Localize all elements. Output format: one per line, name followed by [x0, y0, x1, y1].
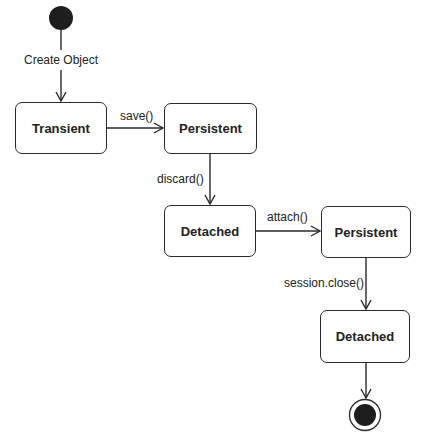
label-save: save() — [120, 109, 153, 123]
label-attach: attach() — [267, 210, 308, 224]
state-persistent-2: Persistent — [321, 206, 411, 258]
state-persistent-1: Persistent — [164, 103, 257, 154]
state-transient: Transient — [15, 102, 107, 154]
state-detached-1: Detached — [164, 205, 256, 257]
label-session-close: session.close() — [284, 276, 364, 290]
label-create-object: Create Object — [24, 53, 98, 67]
state-detached-2: Detached — [320, 310, 410, 363]
initial-state-icon — [49, 6, 73, 30]
final-state-icon — [354, 404, 376, 426]
label-discard: discard() — [157, 172, 204, 186]
